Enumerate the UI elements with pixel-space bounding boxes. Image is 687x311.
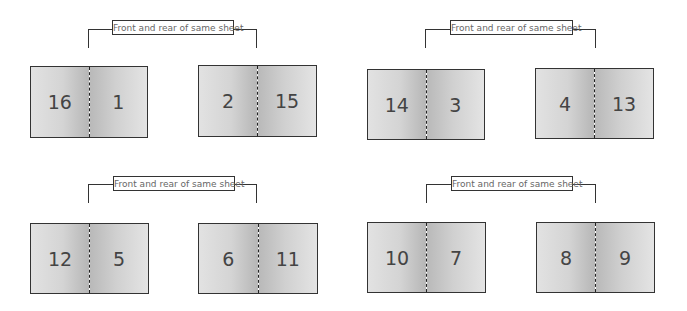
page-number: 3 [427, 70, 485, 139]
bracket-line [425, 29, 426, 48]
page-number: 2 [199, 66, 257, 136]
bracket-line [426, 184, 427, 203]
page-number: 12 [31, 224, 89, 293]
sheet-rear: 2 15 [198, 65, 317, 137]
sheet-rear: 4 13 [535, 68, 654, 139]
page-number: 6 [199, 224, 258, 293]
page-number: 14 [368, 70, 426, 139]
bracket-line [256, 29, 257, 48]
sheet-label: Front and rear of same sheet [451, 176, 573, 191]
bracket-line [425, 29, 451, 30]
sheet-front: 10 7 [367, 222, 486, 293]
bracket-line [595, 184, 596, 203]
page-number: 5 [90, 224, 148, 293]
page-number: 9 [596, 223, 654, 292]
bracket-line [88, 184, 113, 185]
bracket-line [256, 184, 257, 203]
sheet-front: 14 3 [367, 69, 485, 140]
sheet-front: 12 5 [30, 223, 149, 294]
page-number: 15 [258, 66, 316, 136]
bracket-line [426, 184, 451, 185]
bracket-line [88, 184, 89, 203]
page-number: 8 [537, 223, 595, 292]
sheet-rear: 8 9 [536, 222, 655, 293]
sheet-label: Front and rear of same sheet [113, 176, 235, 191]
page-number: 11 [259, 224, 318, 293]
page-number: 13 [595, 69, 653, 138]
page-number: 1 [90, 67, 148, 137]
page-number: 16 [31, 67, 89, 137]
bracket-line [595, 29, 596, 48]
bracket-line [88, 29, 113, 30]
sheet-label: Front and rear of same sheet [112, 20, 234, 35]
bracket-line [88, 29, 89, 48]
page-number: 4 [536, 69, 594, 138]
sheet-label: Front and rear of same sheet [450, 20, 573, 35]
sheet-rear: 6 11 [198, 223, 318, 294]
page-number: 7 [427, 223, 485, 292]
sheet-front: 16 1 [30, 66, 148, 138]
page-number: 10 [368, 223, 426, 292]
